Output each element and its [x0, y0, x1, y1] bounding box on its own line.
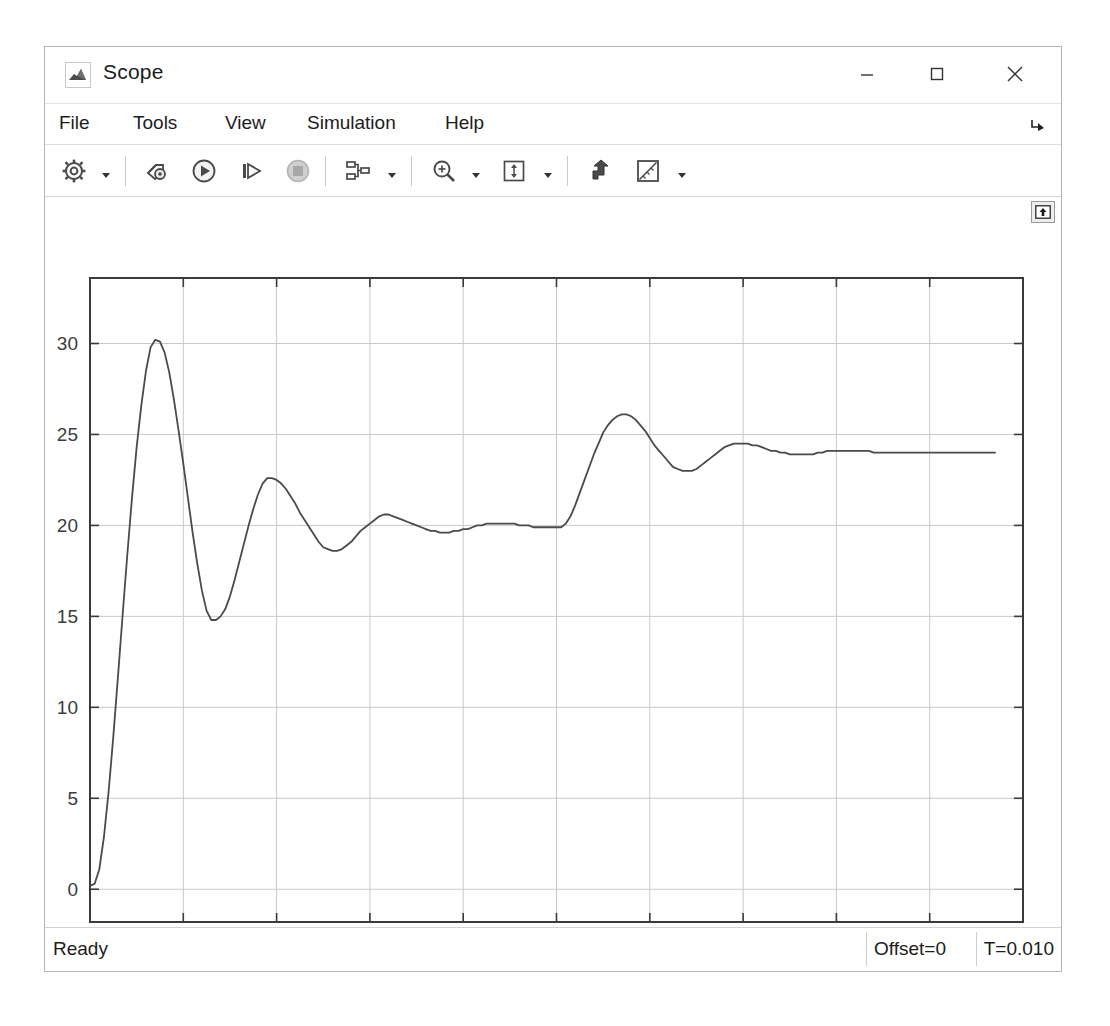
configuration-properties-icon[interactable]	[55, 153, 93, 189]
menu-item-view[interactable]: View	[225, 112, 266, 134]
status-bar: Ready Offset=0 T=0.010	[45, 927, 1061, 971]
toolbar-separator-3	[411, 156, 412, 186]
measurements-caret[interactable]	[677, 166, 687, 176]
menu-bar: File Tools View Simulation Help	[45, 103, 1061, 145]
title-bar: Scope	[45, 47, 1061, 103]
status-time: T=0.010	[976, 932, 1061, 966]
close-button[interactable]	[989, 53, 1041, 95]
menu-item-simulation[interactable]: Simulation	[307, 112, 396, 134]
toolbar	[45, 145, 1061, 197]
svg-text:15: 15	[57, 606, 78, 627]
matlab-scope-icon	[65, 62, 91, 88]
expand-panel-icon[interactable]	[1031, 201, 1055, 223]
scope-window: Scope File Tools View	[44, 46, 1062, 972]
menu-item-file[interactable]: File	[59, 112, 90, 134]
configuration-dropdown-caret[interactable]	[101, 166, 111, 176]
toolbar-separator-2	[325, 156, 326, 186]
screen-root: Scope File Tools View	[0, 0, 1110, 1026]
step-forward-icon[interactable]	[233, 153, 271, 189]
menu-item-tools[interactable]: Tools	[133, 112, 177, 134]
zoom-in-icon[interactable]	[425, 153, 463, 189]
zoom-dropdown-caret[interactable]	[471, 166, 481, 176]
run-icon[interactable]	[185, 153, 223, 189]
plot-region[interactable]: 051015202530 00.0010.0020.0030.0040.0050…	[45, 197, 1061, 927]
svg-text:5: 5	[67, 788, 78, 809]
maximize-button[interactable]	[911, 53, 963, 95]
minimize-button[interactable]	[841, 53, 893, 95]
signal-selection-caret[interactable]	[387, 166, 397, 176]
menu-item-help[interactable]: Help	[445, 112, 484, 134]
print-icon[interactable]	[139, 153, 177, 189]
svg-text:25: 25	[57, 424, 78, 445]
toolbar-separator-4	[567, 156, 568, 186]
status-offset: Offset=0	[866, 932, 953, 966]
scale-axes-limits-icon[interactable]	[581, 153, 619, 189]
svg-text:0: 0	[67, 879, 78, 900]
measurements-icon[interactable]	[629, 153, 667, 189]
toolbar-separator-1	[125, 156, 126, 186]
svg-text:10: 10	[57, 697, 78, 718]
svg-text:30: 30	[57, 333, 78, 354]
scope-plot[interactable]: 051015202530 00.0010.0020.0030.0040.0050…	[45, 197, 1061, 929]
signal-selection-icon[interactable]	[339, 153, 377, 189]
svg-text:20: 20	[57, 515, 78, 536]
status-message: Ready	[53, 938, 108, 960]
autoscale-icon[interactable]	[495, 153, 533, 189]
autoscale-caret[interactable]	[543, 166, 553, 176]
window-title: Scope	[103, 60, 164, 84]
stop-icon[interactable]	[279, 153, 317, 189]
expand-arrow-icon[interactable]	[1029, 116, 1047, 134]
